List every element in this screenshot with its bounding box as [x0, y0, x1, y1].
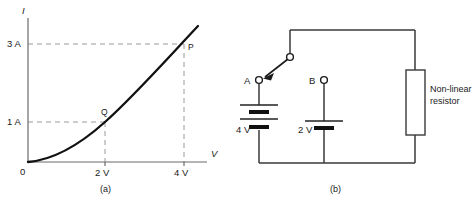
selector-switch[interactable] [263, 30, 293, 81]
xtick-label-2v: 2 V [95, 167, 110, 178]
switch-pivot-icon[interactable] [287, 54, 294, 61]
panel-b-caption: (b) [330, 184, 341, 194]
battery-2v: 2 V [298, 121, 343, 135]
y-axis-label: I [22, 5, 25, 16]
physics-figure: I V 3 A 1 A 0 2 V 4 V P Q (a) 4 V [0, 0, 476, 203]
panel-a-caption: (a) [100, 184, 111, 194]
battery-2v-label: 2 V [298, 124, 313, 135]
point-label-q: Q [101, 107, 108, 117]
panel-b-circuit: 4 V 2 V A B Non-linear [236, 30, 472, 194]
panel-a-graph: I V 3 A 1 A 0 2 V 4 V P Q (a) [7, 5, 219, 194]
non-linear-resistor: Non-linear resistor [406, 70, 472, 135]
terminal-a-label: A [244, 75, 251, 86]
switch-blade[interactable] [265, 59, 288, 77]
terminal-b-label: B [309, 75, 315, 86]
battery-4v-label: 4 V [236, 124, 251, 135]
iv-curve [28, 26, 198, 162]
battery-4v: 4 V [236, 105, 278, 135]
non-linear-resistor-body [406, 70, 425, 135]
terminal-a-contact-icon[interactable] [256, 77, 263, 84]
non-linear-resistor-label-line-1: Non-linear [430, 84, 472, 94]
origin-label: 0 [20, 166, 25, 177]
non-linear-resistor-label-line-2: resistor [430, 96, 460, 106]
x-axis-label: V [211, 148, 219, 159]
xtick-label-4v: 4 V [174, 167, 189, 178]
ytick-label-3a: 3 A [7, 38, 21, 49]
point-label-p: P [188, 42, 194, 52]
terminal-b-contact-icon[interactable] [321, 77, 328, 84]
ytick-label-1a: 1 A [7, 116, 21, 127]
